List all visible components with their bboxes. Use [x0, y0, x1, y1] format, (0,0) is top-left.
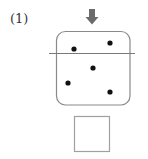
dot	[71, 46, 76, 51]
dot	[107, 89, 112, 94]
down-arrow-icon	[86, 9, 99, 25]
answer-box[interactable]	[75, 117, 110, 152]
diagram-canvas	[0, 0, 148, 159]
dots-group	[65, 40, 112, 94]
dot	[65, 80, 70, 85]
dot	[107, 40, 112, 45]
dot	[90, 65, 95, 70]
